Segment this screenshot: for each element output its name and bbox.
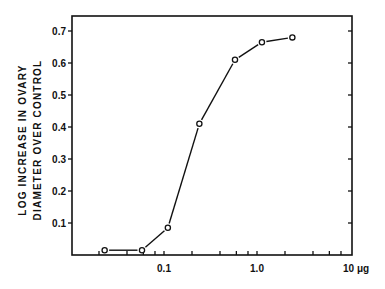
y-tick-label: 0.2 [52, 186, 66, 197]
x-tick-label: 0.1 [157, 263, 171, 274]
data-point-marker [259, 40, 264, 45]
y-axis-label-line1: LOG INCREASE IN OVARY [17, 64, 28, 215]
plot-frame [72, 16, 352, 255]
series-segment [202, 64, 233, 120]
y-axis-ticks: 0.10.20.30.40.50.60.7 [52, 26, 72, 229]
x-tick-label: 10 μg [343, 263, 369, 274]
chart-figure: LOG INCREASE IN OVARY DIAMETER OVER CONT… [0, 0, 385, 289]
y-axis-label-line2: DIAMETER OVER CONTROL [32, 60, 43, 221]
x-axis-tick-labels: 0.11.010 μg [157, 263, 369, 274]
data-point-marker [290, 35, 295, 40]
x-tick-label: 1.0 [250, 263, 264, 274]
y-tick-label: 0.7 [52, 26, 66, 37]
y-tick-label: 0.4 [52, 122, 66, 133]
y-tick-label: 0.6 [52, 58, 66, 69]
y-tick-label: 0.1 [52, 218, 66, 229]
y-tick-label: 0.3 [52, 154, 66, 165]
series-segment [266, 38, 288, 41]
series-segment [145, 231, 164, 248]
series-segment [169, 128, 198, 223]
data-point-marker [102, 248, 107, 253]
y-tick-label: 0.5 [52, 90, 66, 101]
data-series [102, 35, 295, 253]
data-point-marker [232, 57, 237, 62]
data-point-marker [197, 121, 202, 126]
data-point-marker [139, 248, 144, 253]
series-segment [239, 45, 258, 58]
data-point-marker [165, 225, 170, 230]
